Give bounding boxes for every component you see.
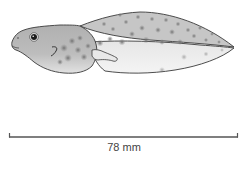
scale-bar: 78 mm <box>9 133 238 153</box>
eye-icon <box>30 33 38 41</box>
nostril <box>17 37 18 38</box>
tadpole-body <box>12 25 97 73</box>
scale-bar-label: 78 mm <box>107 141 141 153</box>
tadpole-illustration: 78 mm <box>0 0 247 190</box>
